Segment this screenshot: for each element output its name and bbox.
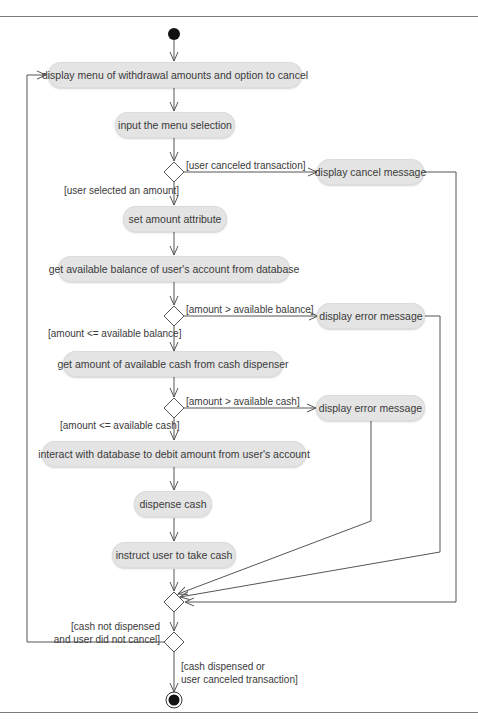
- action-set-amount-attribute: set amount attribute: [123, 206, 227, 232]
- decision-2: [164, 306, 184, 326]
- action-debit-account: interact with database to debit amount f…: [42, 441, 306, 467]
- action-get-available-cash: get amount of available cash from cash d…: [63, 351, 283, 377]
- action-instruct-take-cash: instruct user to take cash: [112, 542, 236, 568]
- action-input-menu-selection: input the menu selection: [115, 112, 235, 138]
- guard-user-selected: [user selected an amount]: [64, 184, 179, 197]
- guard-loop-back-2: and user did not cancel]: [40, 633, 160, 646]
- guard-exit-1: [cash dispensed or: [181, 660, 265, 673]
- guard-user-canceled: [user canceled transaction]: [186, 159, 306, 172]
- initial-node: [168, 28, 180, 40]
- guard-amount-gt-balance: [amount > available balance]: [186, 303, 314, 316]
- decision-4: [164, 632, 184, 652]
- guard-loop-back-1: [cash not dispensed: [60, 620, 160, 633]
- decision-3: [164, 398, 184, 418]
- action-get-available-balance: get available balance of user's account …: [58, 256, 290, 282]
- decision-1: [164, 162, 184, 182]
- frame-bottom-rule: [0, 712, 478, 713]
- merge-node: [164, 592, 184, 612]
- action-dispense-cash: dispense cash: [134, 491, 212, 517]
- action-display-menu: display menu of withdrawal amounts and o…: [48, 62, 302, 88]
- guard-exit-2: user canceled transaction]: [181, 673, 298, 686]
- action-display-cancel-message: display cancel message: [317, 159, 424, 185]
- action-display-error-message-balance: display error message: [317, 303, 425, 329]
- guard-amount-le-cash: [amount <= available cash]: [60, 419, 180, 432]
- guard-amount-le-balance: [amount <= available balance]: [48, 327, 181, 340]
- guard-amount-gt-cash: [amount > available cash]: [186, 395, 300, 408]
- action-display-error-message-cash: display error message: [316, 395, 425, 421]
- final-node: [169, 695, 180, 706]
